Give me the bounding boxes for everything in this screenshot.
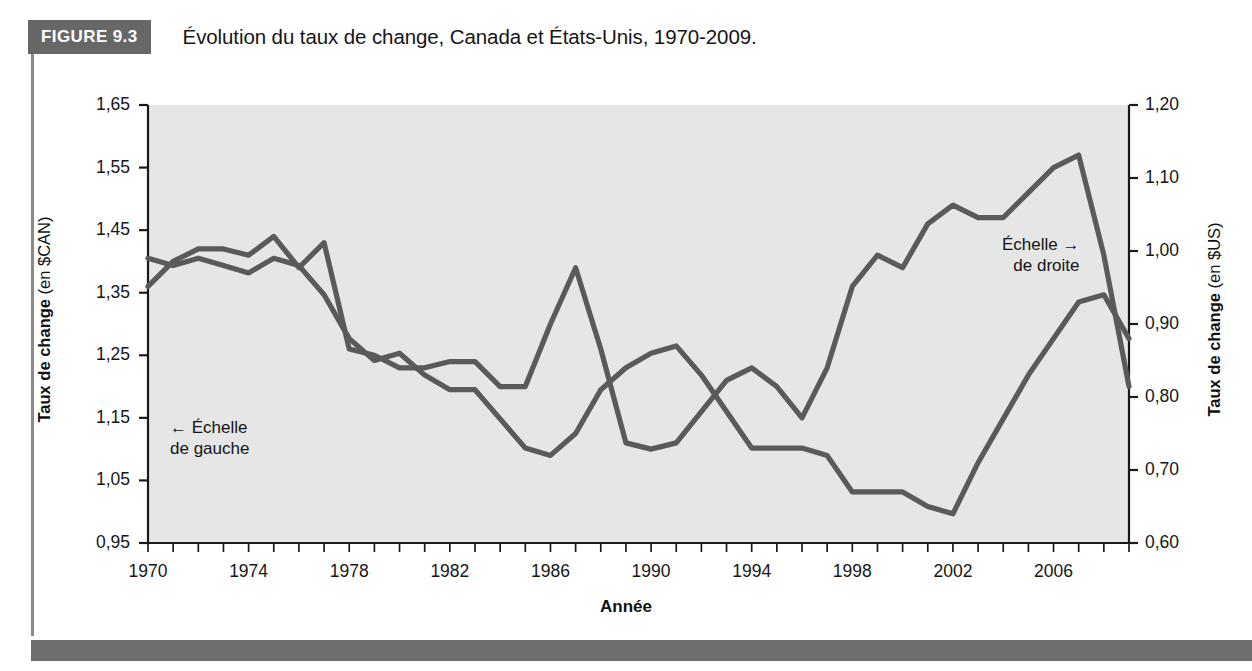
- left-scale-annotation-line2: de gauche: [170, 438, 249, 459]
- right-tick-label: 0,70: [1145, 459, 1205, 480]
- left-scale-annotation: ← Échelle de gauche: [170, 417, 249, 460]
- x-axis-ticks: [148, 543, 1129, 552]
- right-tick-label: 1,10: [1145, 167, 1205, 188]
- right-scale-annotation-line2: de droite: [1002, 255, 1079, 276]
- x-tick-label: 1982: [415, 561, 485, 582]
- figure-title: Évolution du taux de change, Canada et É…: [183, 25, 757, 49]
- right-tick-label: 0,60: [1145, 532, 1205, 553]
- figure-number-badge: FIGURE 9.3: [28, 20, 151, 54]
- x-tick-label: 2002: [918, 561, 988, 582]
- left-tick-label: 1,55: [70, 157, 130, 178]
- x-tick-label: 1998: [817, 561, 887, 582]
- right-tick-label: 0,80: [1145, 386, 1205, 407]
- x-tick-label: 1970: [113, 561, 183, 582]
- x-tick-label: 1990: [616, 561, 686, 582]
- right-tick-label: 0,90: [1145, 313, 1205, 334]
- left-axis-ticks: [139, 105, 148, 543]
- x-axis-title: Année: [0, 597, 1252, 617]
- left-tick-label: 1,65: [70, 94, 130, 115]
- left-tick-label: 1,05: [70, 469, 130, 490]
- right-tick-label: 1,00: [1145, 240, 1205, 261]
- right-scale-annotation: Échelle → de droite: [1002, 234, 1079, 277]
- figure-header: FIGURE 9.3 Évolution du taux de change, …: [28, 20, 757, 54]
- plot-background: [148, 105, 1129, 543]
- x-tick-label: 2006: [1019, 561, 1089, 582]
- x-tick-label: 1974: [214, 561, 284, 582]
- figure-container: FIGURE 9.3 Évolution du taux de change, …: [0, 0, 1252, 671]
- bottom-decorative-band: [31, 640, 1252, 661]
- left-tick-label: 1,25: [70, 344, 130, 365]
- right-axis-title: Taux de change (en $US): [1205, 190, 1224, 450]
- left-axis-title: Taux de change (en $CAN): [35, 190, 54, 450]
- left-tick-label: 0,95: [70, 532, 130, 553]
- right-axis-ticks: [1129, 105, 1138, 543]
- x-tick-label: 1994: [717, 561, 787, 582]
- x-tick-label: 1986: [515, 561, 585, 582]
- left-tick-label: 1,45: [70, 219, 130, 240]
- right-tick-label: 1,20: [1145, 94, 1205, 115]
- left-axis-title-units: (en $CAN): [35, 217, 53, 300]
- right-axis-title-units: (en $US): [1205, 222, 1223, 293]
- right-scale-annotation-line1: Échelle →: [1002, 234, 1079, 255]
- left-axis-title-strong: Taux de change: [35, 299, 53, 422]
- x-tick-label: 1978: [314, 561, 384, 582]
- left-scale-annotation-line1: ← Échelle: [170, 417, 249, 438]
- chart-area: 0,951,051,151,251,351,451,551,65 0,600,7…: [0, 78, 1252, 628]
- exchange-rate-line-chart: [0, 78, 1252, 628]
- right-axis-title-strong: Taux de change: [1205, 293, 1223, 416]
- left-tick-label: 1,15: [70, 407, 130, 428]
- left-tick-label: 1,35: [70, 282, 130, 303]
